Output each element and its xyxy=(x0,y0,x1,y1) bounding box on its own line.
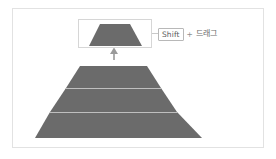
selection-rectangle[interactable] xyxy=(78,19,152,48)
shortcut-callout: Shift + 드래그 xyxy=(158,27,217,41)
figure-root: Shift + 드래그 xyxy=(0,0,276,159)
plus-separator: + xyxy=(186,30,194,39)
drag-action-label: 드래그 xyxy=(196,29,218,39)
shift-key-cap: Shift xyxy=(158,28,184,41)
